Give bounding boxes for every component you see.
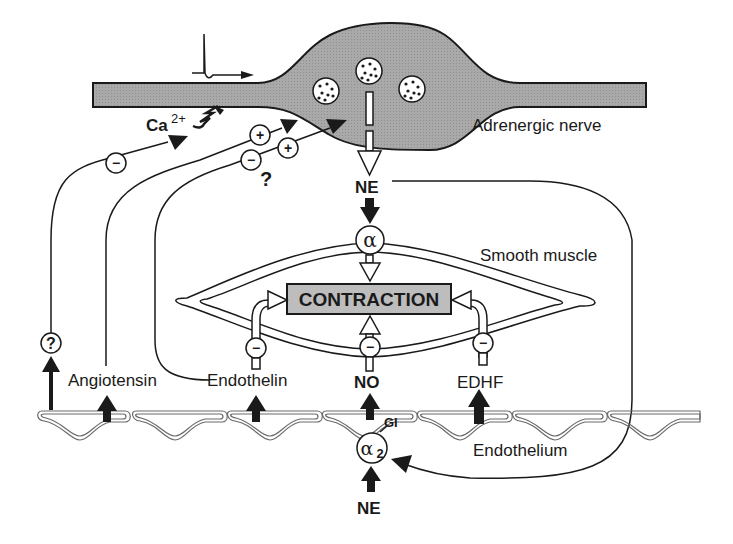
svg-text:−: − <box>252 340 260 356</box>
svg-text:α: α <box>363 228 377 252</box>
minus-badge: − <box>241 150 261 170</box>
no-label: NO <box>354 373 380 392</box>
endothelin-stem <box>252 358 260 369</box>
svg-text:?: ? <box>46 335 56 352</box>
arrowhead <box>241 71 254 79</box>
unknown-factor-node: ? <box>41 333 61 353</box>
minus-badge: − <box>106 153 126 173</box>
endothelial-cell <box>418 411 513 440</box>
solid-up-arrow-endothelin <box>246 395 266 422</box>
endothelin-label: Endothelin <box>207 371 287 390</box>
svg-text:−: − <box>366 339 374 355</box>
smooth-muscle-label: Smooth muscle <box>480 246 597 265</box>
plus-badge: + <box>250 125 270 145</box>
calcium-charge: 2+ <box>171 111 186 126</box>
hollow-down-arrow <box>360 255 380 281</box>
alpha-receptor: α <box>356 226 384 254</box>
vesicle-left <box>313 78 339 104</box>
solid-up-arrow <box>42 356 60 410</box>
endothelial-cell <box>608 411 700 440</box>
ne-bottom-label: NE <box>357 499 381 518</box>
no-stem <box>366 357 373 371</box>
gi-label: GI <box>384 415 398 430</box>
contraction-box: CONTRACTION <box>287 284 451 314</box>
svg-text:−: − <box>479 335 487 351</box>
plus-badge: + <box>278 138 298 158</box>
action-potential-icon <box>192 34 241 78</box>
svg-text:2: 2 <box>376 446 383 461</box>
arrowhead <box>168 135 188 150</box>
vesicle-right <box>399 76 425 102</box>
svg-text:α: α <box>361 437 374 459</box>
svg-text:CONTRACTION: CONTRACTION <box>299 289 439 310</box>
solid-up-arrow-ne-bottom <box>361 466 381 492</box>
vesicle-center <box>356 58 382 84</box>
minus-badge: − <box>360 337 380 357</box>
endothelial-cell <box>228 411 323 440</box>
solid-down-arrow <box>360 198 380 224</box>
arrowhead <box>391 455 412 473</box>
endothelial-cell <box>38 411 131 440</box>
svg-text:−: − <box>112 155 120 171</box>
calcium-influx-icon <box>193 106 218 127</box>
arrowhead <box>280 119 298 134</box>
edhf-stem <box>479 353 487 365</box>
minus-badge: − <box>246 338 266 358</box>
endothelial-cell <box>133 411 228 440</box>
adrenergic-nerve-label: Adrenergic nerve <box>472 116 601 135</box>
solid-up-arrow-no <box>360 393 380 420</box>
vascular-regulation-diagram: Adrenergic nerve NE Ca 2+ − + − + ? ? <box>0 0 733 544</box>
angiotensin-label: Angiotensin <box>68 371 157 390</box>
calcium-label: Ca <box>146 116 168 135</box>
ne-to-alpha2-loop <box>392 181 632 478</box>
minus-badge: − <box>473 333 493 353</box>
solid-up-arrow-edhf <box>468 389 490 424</box>
endothelium-label: Endothelium <box>473 441 568 460</box>
svg-text:−: − <box>247 152 255 168</box>
question-mark-endothelin: ? <box>260 168 272 190</box>
ne-top-label: NE <box>355 178 379 197</box>
svg-text:+: + <box>256 127 264 143</box>
alpha2-receptor: α 2 <box>357 433 387 463</box>
edhf-label: EDHF <box>457 373 503 392</box>
svg-text:+: + <box>284 140 292 156</box>
solid-up-arrow-angiotensin <box>97 395 117 422</box>
endothelial-cell <box>513 411 608 440</box>
